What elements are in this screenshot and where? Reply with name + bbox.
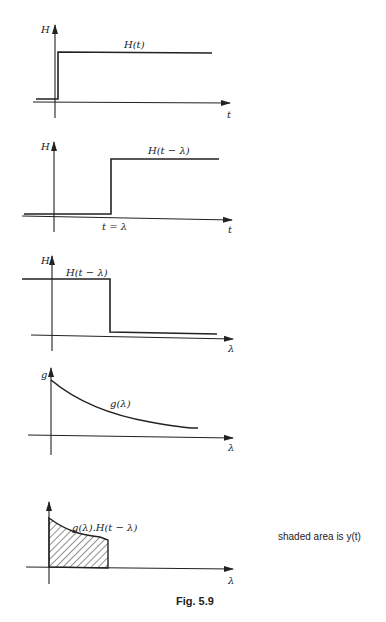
panel-reversed-step: H λ H(t − λ) bbox=[22, 255, 234, 354]
panel-product: λ g(λ).H(t − λ) bbox=[26, 502, 234, 586]
x-axis bbox=[28, 435, 233, 438]
panel-step: H t H(t) bbox=[33, 24, 232, 120]
step-curve bbox=[36, 52, 212, 99]
x-axis bbox=[33, 102, 230, 103]
shaded-area-note: shaded area is y(t) bbox=[278, 531, 361, 542]
x-axis-label: λ bbox=[227, 442, 234, 453]
curve-label: g(λ).H(t − λ) bbox=[72, 522, 137, 533]
y-axis-label: H bbox=[40, 255, 50, 266]
x-axis-label: λ bbox=[227, 343, 234, 354]
x-axis-label: t bbox=[227, 109, 232, 120]
x-axis bbox=[31, 335, 233, 339]
curve-label: g(λ) bbox=[110, 398, 131, 409]
curve-label: H(t − λ) bbox=[65, 267, 108, 278]
panel-impulse-response: g λ g(λ) bbox=[28, 368, 234, 455]
step-curve bbox=[22, 279, 217, 334]
figure-caption: Fig. 5.9 bbox=[176, 595, 214, 607]
y-axis-label: H bbox=[40, 141, 50, 152]
panel-shifted-step: H t H(t − λ) t = λ bbox=[22, 141, 233, 235]
figure-canvas: H t H(t) H t H(t − λ) t = λ H λ H(t − λ)… bbox=[0, 0, 386, 622]
x-axis-label: λ bbox=[227, 575, 234, 586]
y-axis-label: H bbox=[40, 24, 50, 35]
x-axis bbox=[26, 567, 233, 569]
curve-label: H(t) bbox=[123, 39, 145, 50]
marker-label: t = λ bbox=[102, 221, 127, 232]
x-axis-label: t bbox=[228, 224, 233, 235]
curve-label: H(t − λ) bbox=[147, 145, 190, 156]
y-axis-label: g bbox=[41, 369, 47, 380]
step-curve bbox=[24, 159, 219, 214]
